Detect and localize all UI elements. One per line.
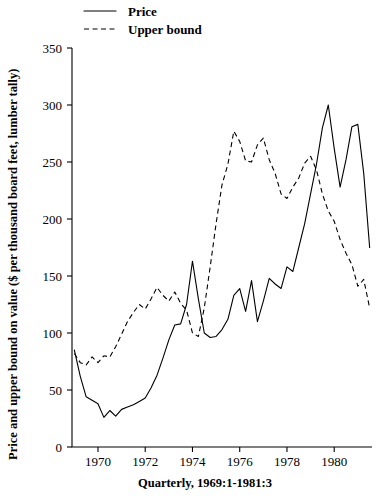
x-tick-label: 1974	[179, 454, 206, 469]
x-tick-label: 1976	[227, 454, 254, 469]
y-tick-label: 100	[43, 326, 63, 341]
legend-label-upper-bound: Upper bound	[128, 22, 203, 37]
chart-figure: Price Upper bound Price and upper bound …	[0, 0, 376, 499]
series-line-price	[74, 105, 369, 417]
line-chart: Price Upper bound Price and upper bound …	[0, 0, 376, 499]
y-tick-label: 300	[43, 98, 63, 113]
x-axis-ticks: 197019721974197619781980	[85, 447, 347, 469]
y-tick-label: 150	[43, 269, 63, 284]
y-axis-title: Price and upper bound on value ($ per th…	[6, 69, 20, 460]
chart-legend: Price Upper bound	[84, 4, 203, 37]
x-tick-label: 1970	[85, 454, 111, 469]
legend-label-price: Price	[128, 4, 157, 19]
x-tick-label: 1980	[321, 454, 347, 469]
y-tick-label: 50	[49, 383, 62, 398]
y-axis-ticks: 050100150200250300350	[43, 41, 73, 455]
y-tick-label: 250	[43, 155, 63, 170]
y-tick-label: 350	[43, 41, 63, 56]
y-tick-label: 0	[56, 440, 63, 455]
y-tick-label: 200	[43, 212, 63, 227]
x-tick-label: 1972	[132, 454, 158, 469]
x-axis-title: Quarterly, 1969:1-1981:3	[138, 476, 272, 490]
x-tick-label: 1978	[274, 454, 300, 469]
